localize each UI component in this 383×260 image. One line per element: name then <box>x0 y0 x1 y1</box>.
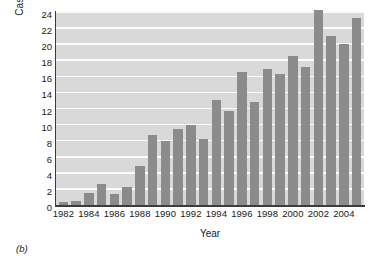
bar <box>326 36 335 205</box>
bar <box>110 194 119 205</box>
bar <box>84 193 93 205</box>
y-tick-label: 20 <box>30 42 52 52</box>
x-tick-label: 2004 <box>324 208 364 220</box>
bar <box>288 56 297 205</box>
bar-slot <box>121 12 134 205</box>
bar-slot <box>248 12 261 205</box>
x-axis-line <box>55 205 365 207</box>
bar-slot <box>70 12 83 205</box>
figure-caption: (b) <box>16 243 28 254</box>
bar <box>314 10 323 205</box>
y-tick-label: 10 <box>30 123 52 133</box>
bar <box>199 139 208 205</box>
bar <box>186 125 195 205</box>
y-axis-line <box>55 11 57 206</box>
bar <box>224 111 233 205</box>
bar <box>122 187 131 205</box>
y-tick-label: 4 <box>30 171 52 181</box>
bar <box>352 18 361 205</box>
y-tick-label: 6 <box>30 155 52 165</box>
y-axis-tick-labels: 024681012141618202224 <box>30 10 52 210</box>
bar-slot <box>83 12 96 205</box>
bar-slot <box>236 12 249 205</box>
bar-series <box>56 12 364 205</box>
y-axis-title: Cases (thousands) <box>13 0 27 48</box>
x-axis-tick-labels: 1982198419861988199019921994199619982000… <box>56 208 364 222</box>
x-axis-title: Year <box>56 228 364 239</box>
bar <box>275 74 284 205</box>
y-tick-label: 18 <box>30 58 52 68</box>
bar-slot <box>146 12 159 205</box>
bar-slot <box>261 12 274 205</box>
y-tick-label: 12 <box>30 107 52 117</box>
bar-slot <box>159 12 172 205</box>
bar-slot <box>325 12 338 205</box>
y-tick-label: 14 <box>30 90 52 100</box>
bar-slot <box>287 12 300 205</box>
bar <box>250 102 259 205</box>
bar <box>148 135 157 205</box>
bar-slot <box>197 12 210 205</box>
bar-chart-figure: Cases (thousands) 024681012141618202224 … <box>0 0 383 260</box>
y-tick-label: 16 <box>30 74 52 84</box>
bar <box>263 69 272 205</box>
bar <box>135 166 144 205</box>
bar-slot <box>350 12 363 205</box>
bar <box>161 141 170 205</box>
bar <box>97 184 106 205</box>
bar-slot <box>312 12 325 205</box>
plot-area <box>56 12 364 205</box>
bar-slot <box>274 12 287 205</box>
bar-slot <box>95 12 108 205</box>
bar-slot <box>57 12 70 205</box>
y-tick-label: 24 <box>30 10 52 20</box>
bar-slot <box>223 12 236 205</box>
bar-slot <box>299 12 312 205</box>
y-tick-label: 8 <box>30 139 52 149</box>
bar-slot <box>134 12 147 205</box>
bar-slot <box>338 12 351 205</box>
bar-slot <box>210 12 223 205</box>
bar <box>173 129 182 205</box>
bar <box>237 72 246 205</box>
y-tick-label: 2 <box>30 187 52 197</box>
bar <box>301 67 310 205</box>
bar-slot <box>172 12 185 205</box>
bar-slot <box>185 12 198 205</box>
y-tick-label: 22 <box>30 26 52 36</box>
bar <box>339 44 348 205</box>
bar <box>212 100 221 205</box>
bar-slot <box>108 12 121 205</box>
